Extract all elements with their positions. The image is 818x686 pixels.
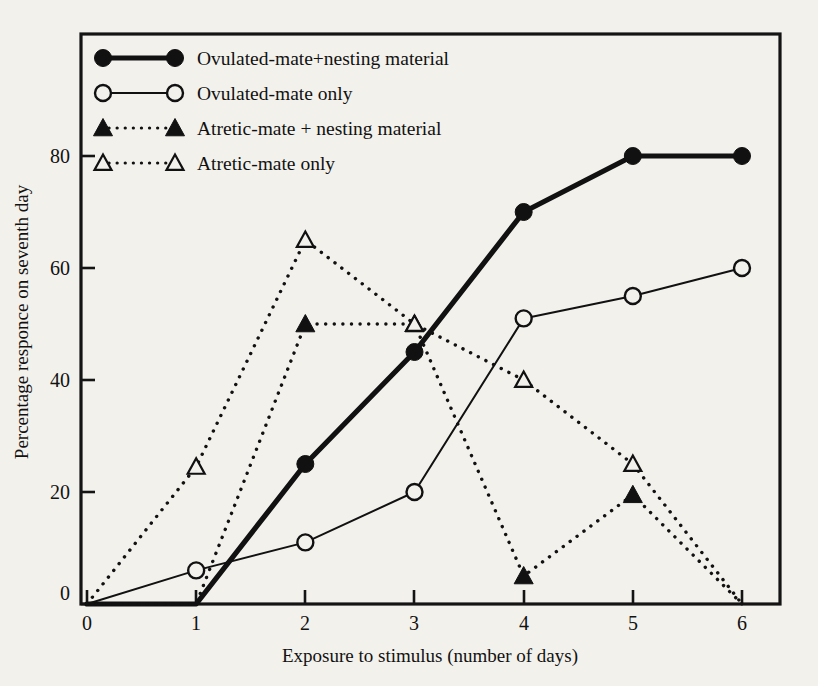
data-point-open-triangle xyxy=(297,232,314,247)
figure-page: 0 20 40 60 80 0 1 2 3 4 5 6 Exposure t xyxy=(0,0,818,686)
legend-entry-2: Atretic-mate + nesting material xyxy=(94,118,442,139)
series-line xyxy=(87,240,742,604)
data-point-open-circle xyxy=(167,85,183,101)
data-point-filled-circle xyxy=(734,148,751,165)
x-tick-label: 5 xyxy=(628,612,638,634)
y-tick-label: 80 xyxy=(50,145,70,167)
series-3 xyxy=(87,232,742,605)
data-point-open-circle xyxy=(95,85,111,101)
series-line xyxy=(87,324,742,604)
chart-legend: Ovulated-mate+nesting materialOvulated-m… xyxy=(94,48,450,174)
data-point-open-circle xyxy=(516,310,532,326)
y-tick-label: 60 xyxy=(50,257,70,279)
x-axis-title: Exposure to stimulus (number of days) xyxy=(282,645,578,667)
data-point-filled-triangle xyxy=(166,119,185,136)
series-1 xyxy=(87,260,750,604)
data-series-layer xyxy=(87,148,751,605)
data-point-open-circle xyxy=(188,562,204,578)
data-point-filled-circle xyxy=(297,456,314,473)
data-point-filled-triangle xyxy=(296,315,315,332)
legend-label: Ovulated-mate+nesting material xyxy=(197,48,450,69)
data-point-filled-circle xyxy=(167,50,184,67)
x-tick-label: 1 xyxy=(191,612,201,634)
data-point-open-circle xyxy=(625,288,641,304)
x-tick-label: 4 xyxy=(519,612,529,634)
data-point-open-circle xyxy=(297,534,313,550)
data-point-filled-circle xyxy=(515,204,532,221)
y-axis-title: Percentage responce on seventh day xyxy=(11,184,32,459)
legend-label: Ovulated-mate only xyxy=(197,83,353,104)
data-point-open-triangle xyxy=(515,372,532,387)
line-chart: 0 20 40 60 80 0 1 2 3 4 5 6 Exposure t xyxy=(0,0,818,686)
legend-entry-3: Atretic-mate only xyxy=(95,153,336,174)
y-tick-label: 40 xyxy=(50,369,70,391)
data-point-open-triangle xyxy=(406,316,423,331)
data-point-open-triangle xyxy=(188,458,205,473)
legend-entry-1: Ovulated-mate only xyxy=(95,83,353,104)
series-0 xyxy=(87,148,751,605)
legend-label: Atretic-mate only xyxy=(197,153,335,174)
data-point-open-circle xyxy=(407,484,423,500)
data-point-filled-triangle xyxy=(514,567,533,584)
x-tick-label: 2 xyxy=(300,612,310,634)
x-tick-label: 6 xyxy=(737,612,747,634)
x-tick-label: 0 xyxy=(82,612,92,634)
x-tick-label: 3 xyxy=(409,612,419,634)
data-point-filled-circle xyxy=(406,344,423,361)
data-point-filled-circle xyxy=(624,148,641,165)
legend-entry-0: Ovulated-mate+nesting material xyxy=(95,48,450,69)
y-axis-tick-labels: 0 20 40 60 80 xyxy=(50,145,70,604)
data-point-open-triangle xyxy=(167,155,184,170)
y-tick-label: 20 xyxy=(50,481,70,503)
x-axis-tick-labels: 0 1 2 3 4 5 6 xyxy=(82,612,747,634)
data-point-open-circle xyxy=(734,260,750,276)
legend-label: Atretic-mate + nesting material xyxy=(197,118,442,139)
y-tick-label: 0 xyxy=(60,582,70,604)
data-point-filled-circle xyxy=(95,50,112,67)
y-axis-ticks xyxy=(81,156,95,604)
series-line xyxy=(87,156,742,604)
data-point-filled-triangle xyxy=(623,485,642,502)
